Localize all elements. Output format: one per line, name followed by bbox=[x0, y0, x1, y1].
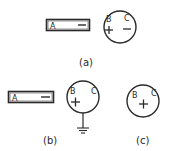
conducting-sphere-a: B C bbox=[104, 11, 136, 43]
sphere-label-b: B bbox=[132, 91, 138, 100]
panel-c: B C (c) bbox=[127, 85, 159, 146]
caption-b: (b) bbox=[43, 135, 57, 146]
sphere-label-c: C bbox=[124, 14, 130, 23]
rod-label: A bbox=[12, 94, 18, 103]
panel-a: A B C (a) bbox=[47, 11, 137, 68]
ground-connection bbox=[77, 113, 89, 133]
charging-by-induction-diagram: A B C (a) A B C bbox=[0, 0, 172, 151]
sphere-label-c: C bbox=[91, 87, 97, 96]
positive-charge-mark bbox=[105, 26, 113, 34]
sphere-label-b: B bbox=[70, 87, 76, 96]
charged-rod-b: A bbox=[9, 92, 54, 103]
sphere-outline bbox=[67, 81, 99, 113]
rod-label: A bbox=[50, 22, 56, 31]
sphere-label-b: B bbox=[106, 15, 112, 24]
positive-charge-mark bbox=[139, 100, 148, 109]
ground-icon bbox=[77, 128, 89, 133]
caption-c: (c) bbox=[136, 135, 149, 146]
charged-rod-a: A bbox=[47, 20, 90, 31]
conducting-sphere-b: B C bbox=[67, 81, 99, 113]
conducting-sphere-c: B C bbox=[127, 85, 159, 117]
caption-a: (a) bbox=[79, 57, 93, 68]
sphere-label-c: C bbox=[151, 89, 157, 98]
panel-b: A B C (b) bbox=[9, 81, 100, 146]
positive-charge-mark bbox=[71, 98, 80, 107]
